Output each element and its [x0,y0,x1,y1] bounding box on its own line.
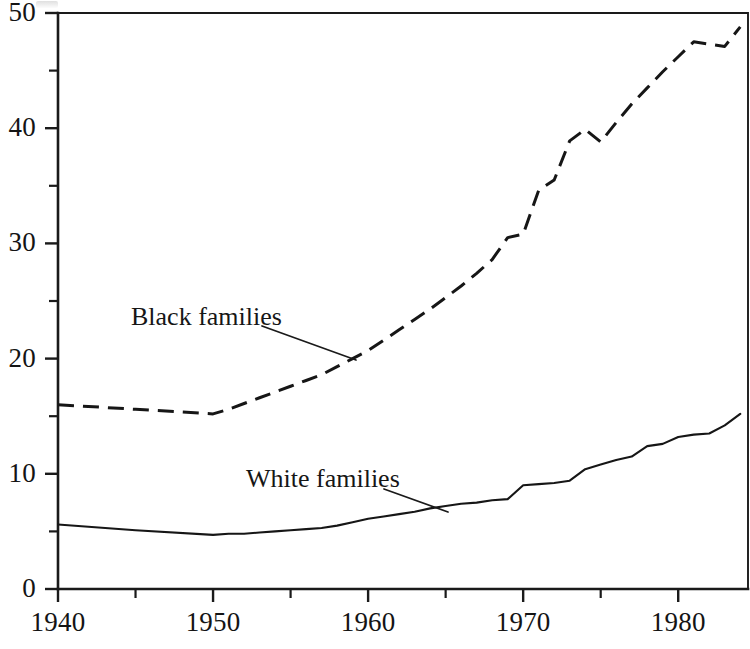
y-tick-label: 30 [0,229,36,256]
annotation-leader-line [262,326,356,360]
chart-figure: 01020304050 19401950196019701980 Black f… [0,0,750,649]
x-tick-label: 1940 [0,609,118,636]
y-tick-label: 40 [0,114,36,141]
x-tick-label: 1960 [308,609,428,636]
plot-frame-border [58,13,748,589]
x-axis-ticks [58,589,678,602]
series-line-black-families [58,27,740,414]
y-tick-label: 0 [0,575,36,602]
x-tick-label: 1980 [618,609,738,636]
y-axis-ticks [45,13,58,589]
annotation-label-white-families: White families [246,466,400,492]
annotation-label-black-families: Black families [131,304,282,330]
line-chart-plot-area [0,0,750,649]
x-tick-label: 1950 [153,609,273,636]
y-tick-label: 10 [0,460,36,487]
y-tick-label: 20 [0,345,36,372]
x-tick-label: 1970 [463,609,583,636]
y-tick-label: 50 [0,0,36,26]
